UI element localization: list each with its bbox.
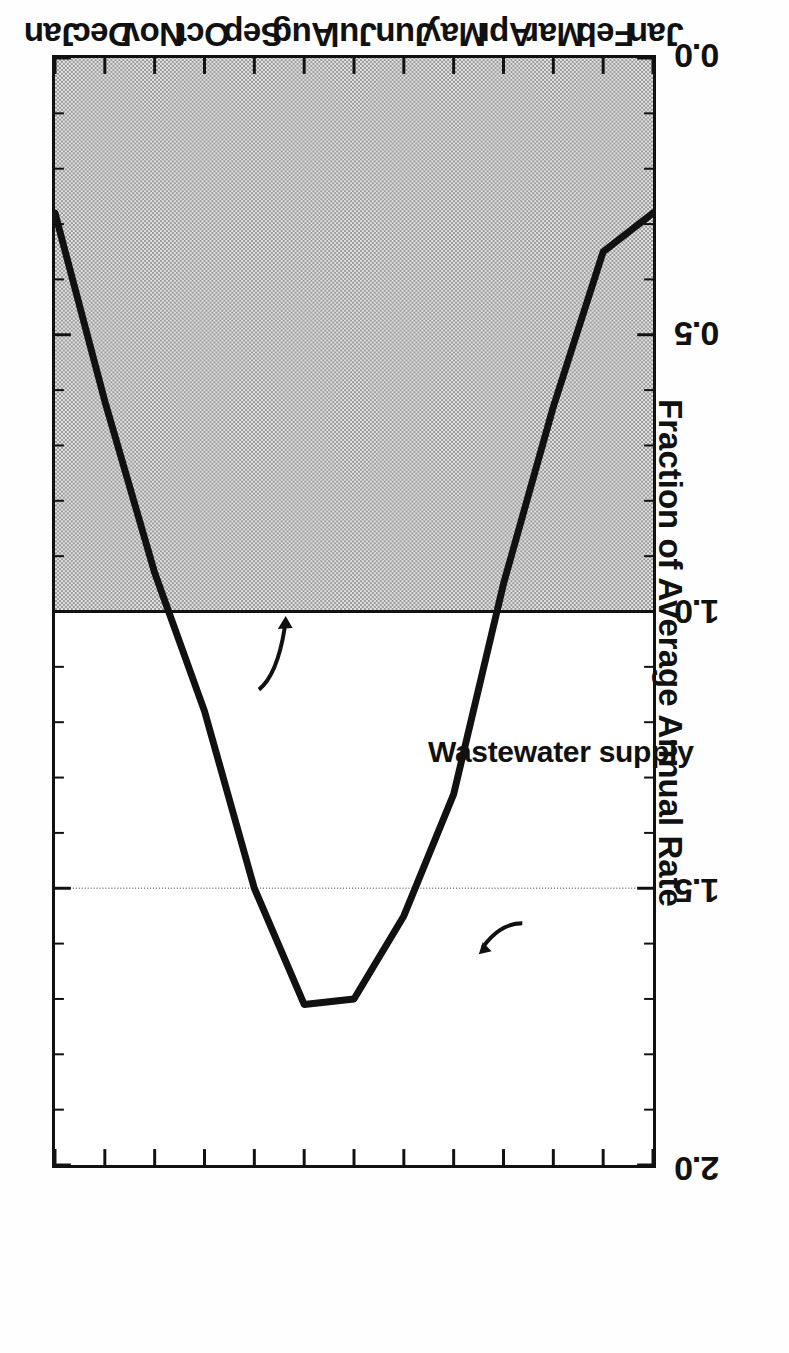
chart-figure: Reclaimed water demand Wastewater supply…	[0, 0, 789, 1353]
x-tick-label-5: Jun	[376, 15, 433, 53]
plot-svg	[55, 58, 653, 1165]
x-axis-tick-labels: JanFebMarAprMayJunJulAugSepOctNovDecJan	[52, 0, 656, 53]
rotated-figure-wrapper: Reclaimed water demand Wastewater supply…	[0, 0, 789, 1353]
demand-annotation-arrow	[483, 923, 523, 947]
x-tick-label-0: Jan	[628, 15, 683, 53]
supply-annotation-arrow	[259, 628, 285, 690]
y-axis-title: Fraction of Average Annual Rate	[651, 303, 689, 1003]
x-tick-label-9: Oct	[176, 15, 230, 53]
x-tick-label-2: Mar	[527, 15, 584, 53]
x-tick-label-12: Jan	[24, 15, 79, 53]
supply-annotation-arrowhead	[278, 616, 293, 629]
x-tick-label-11: Dec	[73, 15, 132, 53]
x-tick-label-1: Feb	[577, 15, 634, 53]
x-tick-label-8: Sep	[224, 15, 283, 53]
plot-area: Reclaimed water demand Wastewater supply	[52, 55, 656, 1168]
y-tick-label-2-0: 2.0	[675, 1149, 719, 1188]
x-tick-label-6: Jul	[331, 15, 377, 53]
